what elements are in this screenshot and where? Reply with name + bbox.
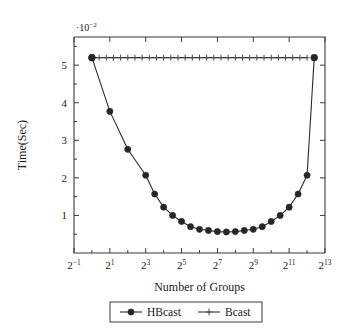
y-axis-title: Time(Sec) xyxy=(15,120,29,170)
bcast-marker xyxy=(197,55,202,61)
hbcast-marker xyxy=(107,108,113,114)
x-tick-label: 211 xyxy=(283,258,296,272)
x-tick-label: 27 xyxy=(213,258,223,272)
hbcast-marker xyxy=(232,228,238,234)
bcast-marker xyxy=(104,55,109,61)
time-vs-number-of-groups-plot: 123452−12123252729211213·10−2Number of G… xyxy=(0,0,346,334)
bcast-marker xyxy=(226,55,231,61)
bcast-marker xyxy=(290,55,295,61)
x-tick-label: 213 xyxy=(319,258,332,272)
hbcast-marker xyxy=(205,227,211,233)
hbcast-marker xyxy=(286,204,292,210)
x-tick-label: 29 xyxy=(249,258,258,272)
legend-label-bcast: Bcast xyxy=(225,306,251,318)
hbcast-tail-segment xyxy=(307,58,314,176)
hbcast-marker xyxy=(170,212,176,218)
bcast-marker xyxy=(125,55,130,61)
bcast-marker xyxy=(240,55,245,61)
bcast-marker xyxy=(276,55,281,61)
hbcast-marker xyxy=(223,229,229,235)
bcast-marker xyxy=(218,55,223,61)
y-tick-label: 2 xyxy=(62,172,68,184)
bcast-marker xyxy=(261,55,266,61)
hbcast-marker xyxy=(295,191,301,197)
legend-hbcast-marker xyxy=(128,309,134,315)
x-tick-label: 25 xyxy=(177,258,187,272)
bcast-marker xyxy=(297,55,302,61)
bcast-marker xyxy=(175,55,180,61)
bcast-marker xyxy=(132,55,137,61)
bcast-marker xyxy=(154,55,159,61)
y-tick-label: 5 xyxy=(62,59,68,71)
bcast-marker xyxy=(211,55,216,61)
y-tick-label: 3 xyxy=(62,134,68,146)
bcast-marker xyxy=(283,55,288,61)
bcast-marker xyxy=(233,55,238,61)
chart-figure: 123452−12123252729211213·10−2Number of G… xyxy=(0,0,346,334)
hbcast-marker xyxy=(241,227,247,233)
bcast-marker xyxy=(304,55,309,61)
y-tick-label: 1 xyxy=(62,209,68,221)
hbcast-marker xyxy=(196,226,202,232)
x-tick-label: 21 xyxy=(105,258,115,272)
hbcast-marker xyxy=(152,191,158,197)
bcast-marker xyxy=(254,55,259,61)
axes-frame-left-bottom xyxy=(74,37,325,253)
bcast-marker xyxy=(140,55,145,61)
hbcast-marker xyxy=(161,204,167,210)
bcast-marker xyxy=(147,55,152,61)
hbcast-marker xyxy=(277,212,283,218)
bcast-marker xyxy=(204,55,209,61)
hbcast-marker xyxy=(259,224,265,230)
bcast-marker xyxy=(247,55,252,61)
x-axis-title: Number of Groups xyxy=(154,280,245,294)
bcast-marker xyxy=(111,55,116,61)
hbcast-marker xyxy=(268,218,274,224)
legend-label-hbcast: HBcast xyxy=(147,306,182,318)
hbcast-marker xyxy=(187,224,193,230)
bcast-marker xyxy=(168,55,173,61)
x-tick-label: 23 xyxy=(141,258,151,272)
hbcast-marker xyxy=(214,228,220,234)
hbcast-marker xyxy=(143,172,149,178)
bcast-marker xyxy=(97,55,102,61)
bcast-marker xyxy=(190,55,195,61)
hbcast-marker xyxy=(250,226,256,232)
y-tick-label: 4 xyxy=(62,97,68,109)
series-hbcast-line xyxy=(92,58,307,232)
hbcast-marker-start xyxy=(89,54,96,61)
bcast-marker xyxy=(161,55,166,61)
bcast-marker xyxy=(183,55,188,61)
bcast-marker xyxy=(269,55,274,61)
hbcast-marker xyxy=(125,146,131,152)
bcast-marker xyxy=(118,55,123,61)
axes-frame-top-right xyxy=(74,37,325,253)
x-tick-label: 2−1 xyxy=(67,258,81,272)
y-axis-multiplier: ·10−2 xyxy=(76,21,97,33)
hbcast-marker xyxy=(178,218,184,224)
